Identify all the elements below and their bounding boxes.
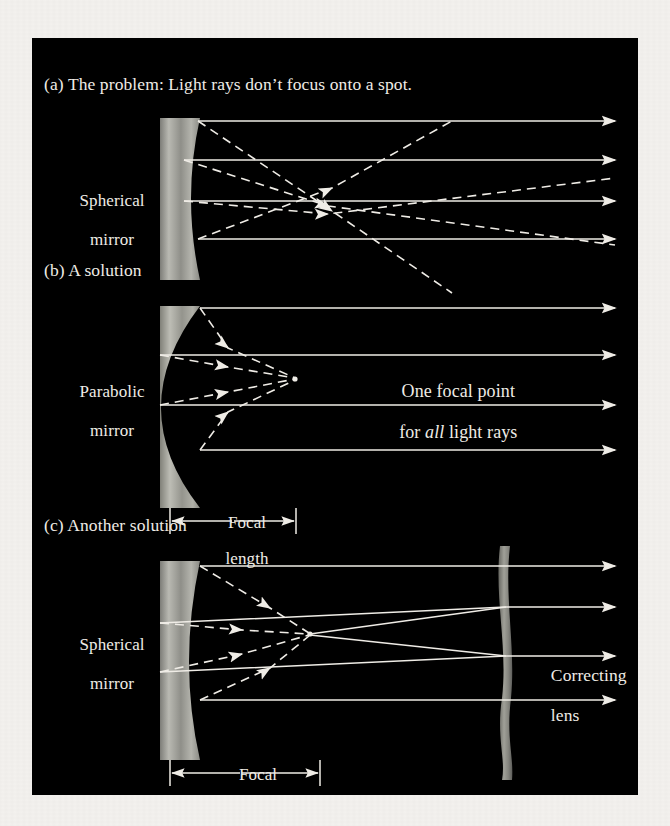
parabolic-mirror-b (160, 306, 200, 508)
lens-label-line1: Correcting (551, 665, 627, 685)
focal-point-note: One focal point for all light rays (337, 360, 552, 463)
mirror-label-line1: Spherical (80, 191, 145, 210)
panel-b-title: (b) A solution (44, 260, 142, 281)
panel-c-focal-length-label: Focal length (195, 748, 295, 795)
mirror-label-line2: mirror (90, 421, 134, 440)
note-line1: One focal point (402, 381, 515, 401)
note-line2-emphasis: all (425, 422, 444, 442)
focal-label-line1: Focal (228, 513, 266, 532)
spherical-mirror-a (160, 118, 200, 280)
panel-b-mirror-label: Parabolic mirror (40, 363, 158, 460)
panel-c-title: (c) Another solution (44, 515, 187, 536)
focal-label-line2: length (226, 549, 269, 568)
panel-a-title: (a) The problem: Light rays don’t focus … (44, 74, 412, 95)
mirror-label-line1: Parabolic (80, 382, 145, 401)
spherical-mirror-c (160, 561, 200, 760)
page-background: (a) The problem: Light rays don’t focus … (0, 0, 670, 826)
figure-panel: (a) The problem: Light rays don’t focus … (32, 38, 638, 795)
panel-c-mirror-label: Spherical mirror (40, 616, 158, 713)
focal-label-line1: Focal (239, 765, 277, 784)
panel-b-focal-length-label: Focal length (184, 496, 284, 585)
mirror-label-line1: Spherical (80, 635, 145, 654)
note-line2-pre: for (399, 422, 425, 442)
panel-a-diagram (160, 118, 615, 293)
correcting-lens (498, 546, 512, 780)
lens-label-line2: lens (551, 705, 580, 725)
panel-a-mirror-label: Spherical mirror (44, 172, 154, 269)
reflected-rays-a (184, 121, 615, 293)
note-line2-post: light rays (444, 422, 517, 442)
correcting-lens-label: Correcting lens (524, 646, 634, 746)
mirror-label-line2: mirror (90, 674, 134, 693)
focal-point-b (292, 376, 297, 381)
mirror-label-line2: mirror (90, 230, 134, 249)
